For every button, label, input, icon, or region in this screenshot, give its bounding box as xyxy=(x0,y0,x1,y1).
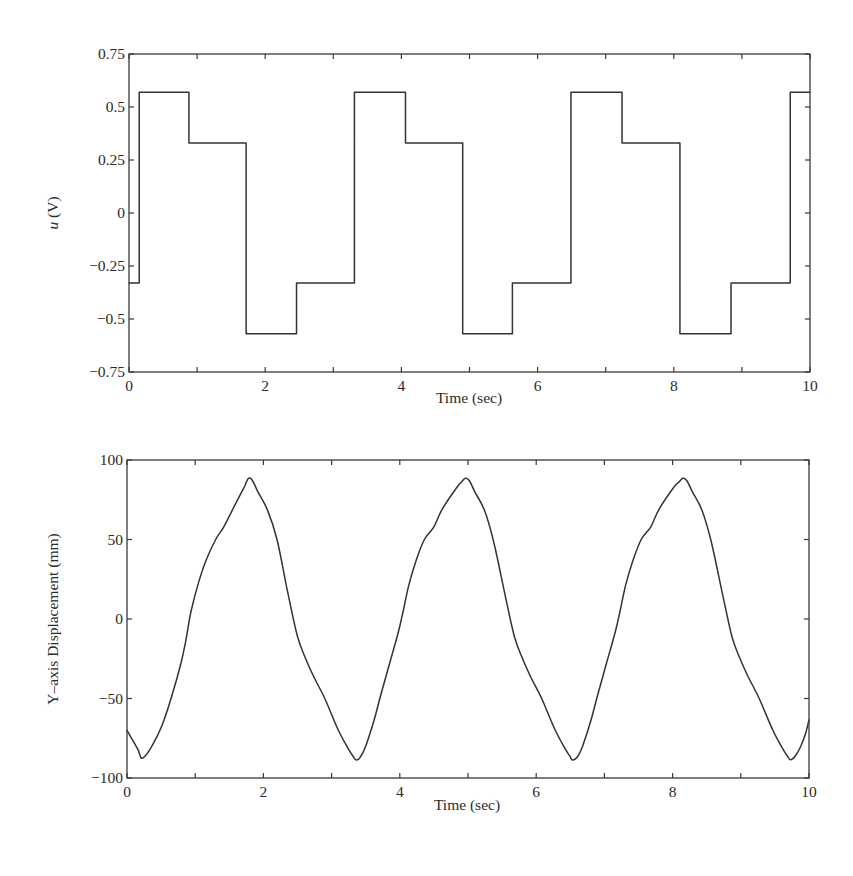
y-tick-label: −0.25 xyxy=(89,257,125,274)
x-tick-label: 10 xyxy=(801,783,817,800)
y-tick-label: −0.5 xyxy=(97,310,125,327)
top-plot-y-axis-label: u (V) xyxy=(44,196,62,229)
y-tick-label: 50 xyxy=(108,531,124,548)
displacement-plot: 0246810100500−50−100 Time (sec) Y–axis D… xyxy=(44,451,817,814)
x-tick-label: 8 xyxy=(670,377,678,394)
top-plot-y-axis-label-unit: (V) xyxy=(44,196,62,221)
displacement-curve xyxy=(127,478,809,760)
y-tick-label: −0.75 xyxy=(89,363,125,380)
x-tick-label: 2 xyxy=(261,377,269,394)
bottom-plot-ticks xyxy=(127,460,809,778)
top-plot-frame xyxy=(129,54,810,372)
y-tick-label: 100 xyxy=(100,451,124,468)
y-tick-label: −50 xyxy=(99,690,123,707)
x-tick-label: 2 xyxy=(260,783,268,800)
bottom-plot-tick-labels: 0246810100500−50−100 xyxy=(91,451,817,800)
x-tick-label: 8 xyxy=(669,783,677,800)
x-tick-label: 4 xyxy=(398,377,406,394)
control-voltage-plot: 02468100.750.50.250−0.25−0.5−0.75 Time (… xyxy=(44,45,818,407)
y-tick-label: 0 xyxy=(115,610,123,627)
top-plot-ticks xyxy=(129,54,810,372)
x-tick-label: 6 xyxy=(532,783,540,800)
figure: 02468100.750.50.250−0.25−0.5−0.75 Time (… xyxy=(0,0,853,876)
top-plot-tick-labels: 02468100.750.50.250−0.25−0.5−0.75 xyxy=(89,45,818,394)
y-tick-label: 0 xyxy=(117,204,125,221)
control-voltage-step-line xyxy=(129,92,810,334)
x-tick-label: 10 xyxy=(802,377,818,394)
bottom-plot-frame xyxy=(127,460,809,778)
y-tick-label: 0.75 xyxy=(98,45,125,62)
bottom-plot-x-axis-label: Time (sec) xyxy=(434,796,500,814)
x-tick-label: 4 xyxy=(396,783,404,800)
bottom-plot-y-axis-label: Y–axis Displacement (mm) xyxy=(44,533,62,704)
x-tick-label: 0 xyxy=(123,783,131,800)
x-tick-label: 6 xyxy=(534,377,542,394)
x-tick-label: 0 xyxy=(125,377,133,394)
top-plot-x-axis-label: Time (sec) xyxy=(436,389,502,407)
y-tick-label: 0.25 xyxy=(98,151,125,168)
y-tick-label: 0.5 xyxy=(106,98,126,115)
y-tick-label: −100 xyxy=(91,769,123,786)
